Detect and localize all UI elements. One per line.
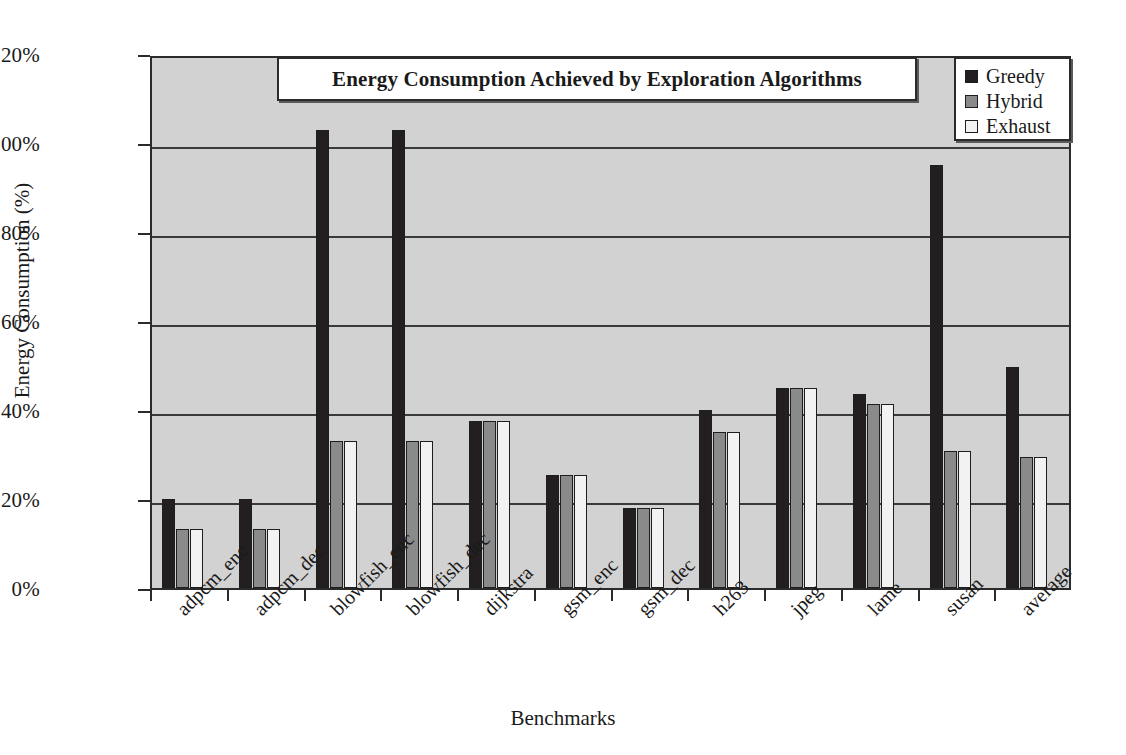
y-tick-mark <box>138 589 150 591</box>
bars-layer <box>152 58 1069 588</box>
legend-swatch-icon <box>965 95 978 108</box>
bar-group <box>162 58 203 588</box>
y-tick-label: 120% <box>0 45 40 66</box>
y-tick-label: 60% <box>0 312 40 333</box>
bar-h263-greedy <box>699 410 712 588</box>
y-tick-label: 20% <box>0 490 40 511</box>
bar-blowfish_enc-hybrid <box>330 441 343 588</box>
bar-lame-greedy <box>853 394 866 588</box>
bar-group <box>853 58 894 588</box>
bar-lame-exhaust <box>881 404 894 588</box>
chart-title-box: Energy Consumption Achieved by Explorati… <box>277 57 917 101</box>
y-tick-mark <box>138 144 150 146</box>
bar-adpcm_enc-hybrid <box>176 529 189 588</box>
legend-swatch-icon <box>965 120 978 133</box>
bar-jpeg-greedy <box>776 388 789 588</box>
bar-gsm_enc-exhaust <box>574 475 587 588</box>
y-tick-mark <box>138 233 150 235</box>
bar-dijkstra-hybrid <box>483 421 496 588</box>
legend-swatch-icon <box>965 70 978 83</box>
bar-average-greedy <box>1006 367 1019 588</box>
x-tick-mark <box>994 590 996 601</box>
x-tick-mark <box>380 590 382 601</box>
chart-figure: Energy Consumption (%) 0%20%40%60%80%100… <box>0 0 1126 755</box>
bar-group <box>699 58 740 588</box>
bar-jpeg-exhaust <box>804 388 817 588</box>
bar-gsm_enc-hybrid <box>560 475 573 588</box>
bar-jpeg-hybrid <box>790 388 803 588</box>
bar-susan-exhaust <box>958 451 971 588</box>
legend: GreedyHybridExhaust <box>954 57 1071 141</box>
y-tick-mark <box>138 55 150 57</box>
legend-label: Exhaust <box>986 116 1050 136</box>
x-tick-mark <box>611 590 613 601</box>
x-axis-title: Benchmarks <box>0 706 1126 731</box>
x-tick-mark <box>841 590 843 601</box>
bar-h263-hybrid <box>713 432 726 588</box>
x-tick-mark <box>764 590 766 601</box>
x-tick-mark <box>534 590 536 601</box>
bar-blowfish_enc-exhaust <box>344 441 357 588</box>
bar-blowfish_enc-greedy <box>316 130 329 588</box>
y-tick-mark <box>138 500 150 502</box>
bar-group <box>239 58 280 588</box>
bar-gsm_dec-greedy <box>623 508 636 588</box>
bar-blowfish_dec-hybrid <box>406 441 419 588</box>
x-tick-mark <box>304 590 306 601</box>
y-tick-label: 100% <box>0 134 40 155</box>
bar-dijkstra-exhaust <box>497 421 510 588</box>
bar-gsm_enc-greedy <box>546 475 559 588</box>
bar-h263-exhaust <box>727 432 740 588</box>
plot-area <box>150 56 1071 590</box>
x-tick-mark <box>687 590 689 601</box>
x-tick-mark <box>457 590 459 601</box>
bar-susan-greedy <box>930 165 943 588</box>
bar-blowfish_dec-greedy <box>392 130 405 588</box>
bar-susan-hybrid <box>944 451 957 588</box>
legend-entry-hybrid: Hybrid <box>965 89 1069 113</box>
legend-label: Greedy <box>986 66 1045 86</box>
y-tick-label: 80% <box>0 223 40 244</box>
bar-gsm_dec-hybrid <box>637 508 650 588</box>
y-tick-mark <box>138 411 150 413</box>
bar-blowfish_dec-exhaust <box>420 441 433 588</box>
y-tick-label: 0% <box>0 579 40 600</box>
bar-adpcm_enc-greedy <box>162 499 175 588</box>
chart-title: Energy Consumption Achieved by Explorati… <box>332 67 862 92</box>
legend-entry-greedy: Greedy <box>965 64 1069 88</box>
bar-group <box>316 58 357 588</box>
legend-entry-exhaust: Exhaust <box>965 114 1069 138</box>
bar-group <box>776 58 817 588</box>
y-tick-mark <box>138 322 150 324</box>
bar-group <box>469 58 510 588</box>
bar-average-exhaust <box>1034 457 1047 588</box>
bar-group <box>546 58 587 588</box>
bar-adpcm_dec-hybrid <box>253 529 266 588</box>
y-tick-label: 40% <box>0 401 40 422</box>
bar-average-hybrid <box>1020 457 1033 588</box>
x-tick-mark <box>150 590 152 601</box>
x-tick-mark <box>227 590 229 601</box>
bar-group <box>623 58 664 588</box>
legend-label: Hybrid <box>986 91 1043 111</box>
bar-lame-hybrid <box>867 404 880 588</box>
bar-group <box>392 58 433 588</box>
x-tick-mark <box>918 590 920 601</box>
